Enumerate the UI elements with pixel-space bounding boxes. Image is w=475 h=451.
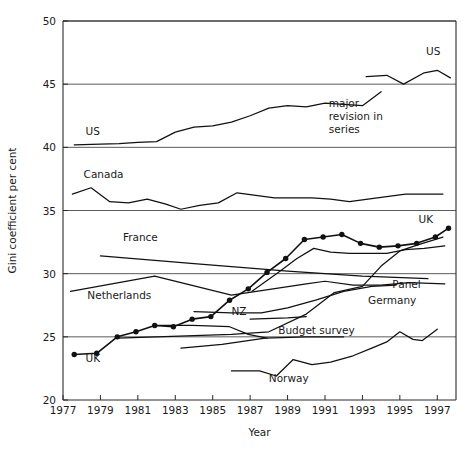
x-tick-label-1981: 1981 bbox=[124, 404, 151, 416]
x-tick-label-1983: 1983 bbox=[162, 404, 189, 416]
series-marker-uk-12 bbox=[302, 237, 307, 242]
series-line-us-revised bbox=[366, 70, 450, 84]
annotation-line-2: series bbox=[329, 123, 360, 135]
x-tick-label-1991: 1991 bbox=[312, 404, 339, 416]
series-marker-uk-2 bbox=[115, 334, 120, 339]
y-tick-label-40: 40 bbox=[43, 141, 56, 153]
series-marker-uk-16 bbox=[377, 244, 382, 249]
y-tick-label-25: 25 bbox=[43, 331, 56, 343]
x-tick-label-1987: 1987 bbox=[237, 404, 264, 416]
series-marker-uk-3 bbox=[133, 329, 138, 334]
y-tick-label-35: 35 bbox=[43, 205, 56, 217]
series-marker-uk-19 bbox=[433, 234, 438, 239]
y-tick-label-50: 50 bbox=[43, 15, 56, 27]
y-tick-labels: 20253035404550 bbox=[43, 15, 56, 406]
series-label-norway: Norway bbox=[269, 372, 309, 384]
series-marker-uk-14 bbox=[339, 232, 344, 237]
x-tick-labels: 1977197919811983198519871989199119931995… bbox=[50, 404, 451, 416]
series-label-france: France bbox=[123, 231, 158, 243]
annotation-line-1: revision in bbox=[329, 110, 383, 122]
series-lines bbox=[70, 70, 450, 376]
chart-annotations: majorrevision inseries bbox=[329, 97, 383, 135]
series-marker-uk-0 bbox=[72, 352, 77, 357]
series-marker-uk-18 bbox=[414, 241, 419, 246]
series-marker-uk-9 bbox=[246, 286, 251, 291]
series-marker-uk-4 bbox=[152, 323, 157, 328]
series-label-uk: UK bbox=[85, 352, 101, 364]
y-axis-ticks bbox=[63, 21, 68, 400]
annotation-major-revision: majorrevision inseries bbox=[329, 97, 383, 135]
series-marker-uk-15 bbox=[358, 241, 363, 246]
series-marker-uk-17 bbox=[395, 243, 400, 248]
series-label-germany: Germany bbox=[368, 294, 416, 306]
series-marker-uk-8 bbox=[227, 298, 232, 303]
chart-container: 1977197919811983198519871989199119931995… bbox=[0, 0, 475, 451]
series-label-us: US bbox=[85, 125, 100, 137]
series-label-canada: Canada bbox=[84, 168, 124, 180]
series-marker-uk-13 bbox=[320, 234, 325, 239]
series-marker-uk-11 bbox=[283, 256, 288, 261]
y-axis-title: Gini coefficient per cent bbox=[6, 148, 18, 274]
series-marker-uk-5 bbox=[171, 324, 176, 329]
series-label-budget-survey: Budget survey bbox=[278, 324, 354, 336]
y-tick-label-20: 20 bbox=[43, 394, 56, 406]
annotation-line-0: major bbox=[329, 97, 360, 109]
series-marker-uk-7 bbox=[208, 314, 213, 319]
series-label-us-revised: US bbox=[426, 45, 441, 57]
series-marker-uk-20 bbox=[446, 225, 451, 230]
x-tick-label-1993: 1993 bbox=[349, 404, 376, 416]
x-tick-label-1985: 1985 bbox=[199, 404, 226, 416]
x-tick-label-1997: 1997 bbox=[424, 404, 451, 416]
series-label-uk-second: UK bbox=[419, 213, 435, 225]
series-marker-uk-6 bbox=[189, 316, 194, 321]
x-tick-label-1995: 1995 bbox=[386, 404, 413, 416]
x-tick-label-1989: 1989 bbox=[274, 404, 301, 416]
series-line-canada bbox=[72, 188, 443, 209]
series-label-nz: NZ bbox=[231, 305, 246, 317]
x-axis-title: Year bbox=[247, 426, 271, 438]
series-label-netherlands: Netherlands bbox=[87, 289, 151, 301]
series-marker-uk-10 bbox=[264, 270, 269, 275]
x-tick-label-1979: 1979 bbox=[87, 404, 114, 416]
y-tick-label-45: 45 bbox=[43, 78, 56, 90]
y-tick-label-30: 30 bbox=[43, 268, 56, 280]
series-line-budget-survey bbox=[181, 337, 344, 348]
series-line-germany bbox=[194, 285, 396, 313]
series-label-panel: Panel bbox=[392, 278, 420, 290]
x-axis-ticks bbox=[63, 395, 437, 400]
gini-coefficient-line-chart: 1977197919811983198519871989199119931995… bbox=[0, 0, 475, 451]
